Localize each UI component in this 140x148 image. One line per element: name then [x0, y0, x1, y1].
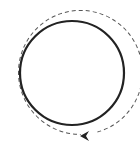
arrowhead-icon [80, 131, 89, 141]
inner-circle [20, 21, 124, 125]
dashed-rotation-path [10, 2, 140, 141]
rotation-diagram [0, 0, 140, 148]
